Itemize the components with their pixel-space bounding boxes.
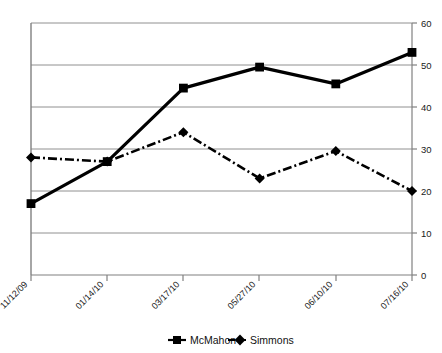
y-axis-label-40: 40 <box>421 102 432 113</box>
data-point-mcmahon-5 <box>408 48 417 57</box>
data-point-mcmahon-0 <box>27 199 36 208</box>
y-axis-label-0: 0 <box>421 270 426 281</box>
line-chart: 60 50 40 30 20 10 0 11/12/09 01/14/10 03… <box>0 0 442 353</box>
data-point-mcmahon-3 <box>255 63 264 72</box>
data-point-mcmahon-4 <box>331 80 340 89</box>
data-point-mcmahon-2 <box>179 84 188 93</box>
chart-background <box>0 0 442 353</box>
y-axis-label-10: 10 <box>421 228 432 239</box>
y-axis-label-20: 20 <box>421 186 432 197</box>
y-axis-label-30: 30 <box>421 144 432 155</box>
y-axis-label-50: 50 <box>421 60 432 71</box>
chart-canvas: 60 50 40 30 20 10 0 11/12/09 01/14/10 03… <box>0 0 442 353</box>
legend-label-simmons: Simmons <box>250 334 294 346</box>
square-marker-icon <box>173 336 181 344</box>
y-axis-label-60: 60 <box>421 18 432 29</box>
